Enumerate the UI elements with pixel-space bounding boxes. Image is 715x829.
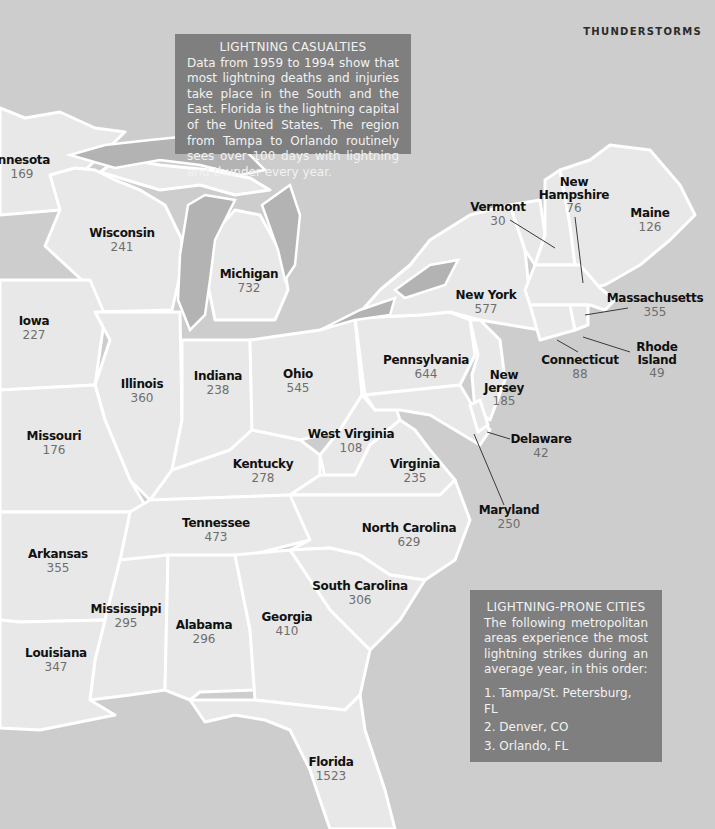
label-illinois: Illinois 360 <box>121 378 163 404</box>
label-pennsylvania: Pennsylvania 644 <box>383 354 469 380</box>
label-delaware: Delaware 42 <box>510 433 571 459</box>
label-michigan: Michigan 732 <box>220 268 279 294</box>
label-florida: Florida 1523 <box>308 756 353 782</box>
label-massachusetts: Massachusetts 355 <box>607 292 704 318</box>
casualties-body: Data from 1959 to 1994 show that most li… <box>187 56 399 181</box>
label-minnesota: innesota 169 <box>0 154 50 180</box>
label-louisiana: Louisiana 347 <box>25 647 87 673</box>
label-missouri: Missouri 176 <box>27 430 82 456</box>
lightning-casualties-box: LIGHTNING CASUALTIES Data from 1959 to 1… <box>175 34 411 154</box>
section-title: THUNDERSTORMS <box>583 26 702 37</box>
casualties-title: LIGHTNING CASUALTIES <box>187 40 399 56</box>
label-kentucky: Kentucky 278 <box>233 458 294 484</box>
label-new-hampshire: New Hampshire 76 <box>536 176 612 215</box>
label-new-york: New York 577 <box>456 289 517 315</box>
label-virginia: Virginia 235 <box>390 458 440 484</box>
label-mississippi: Mississippi 295 <box>91 603 162 629</box>
city-item: 2. Denver, CO <box>484 720 648 736</box>
label-arkansas: Arkansas 355 <box>28 548 88 574</box>
label-rhode-island: Rhode Island 49 <box>632 341 682 380</box>
city-item: 3. Orlando, FL <box>484 739 648 755</box>
label-indiana: Indiana 238 <box>194 370 242 396</box>
label-maine: Maine 126 <box>630 207 669 233</box>
label-wisconsin: Wisconsin 241 <box>89 227 155 253</box>
city-list: 1. Tampa/St. Petersburg, FL 2. Denver, C… <box>484 686 648 754</box>
label-connecticut: Connecticut 88 <box>541 354 618 380</box>
label-ohio: Ohio 545 <box>283 368 313 394</box>
lightning-prone-cities-box: LIGHTNING-PRONE CITIES The following met… <box>470 590 662 762</box>
label-alabama: Alabama 296 <box>176 619 233 645</box>
label-vermont: Vermont 30 <box>470 201 526 227</box>
label-iowa: Iowa 227 <box>19 315 50 341</box>
label-georgia: Georgia 410 <box>262 611 313 637</box>
label-south-carolina: South Carolina 306 <box>312 580 408 606</box>
label-new-jersey: New Jersey 185 <box>480 369 528 408</box>
label-maryland: Maryland 250 <box>479 504 540 530</box>
label-north-carolina: North Carolina 629 <box>362 522 456 548</box>
label-tennessee: Tennessee 473 <box>182 517 250 543</box>
city-item: 1. Tampa/St. Petersburg, FL <box>484 686 648 717</box>
cities-title: LIGHTNING-PRONE CITIES <box>484 600 648 616</box>
cities-body: The following metropolitan areas experie… <box>484 616 648 678</box>
label-west-virginia: West Virginia 108 <box>308 428 395 454</box>
state-iowa <box>0 280 105 390</box>
